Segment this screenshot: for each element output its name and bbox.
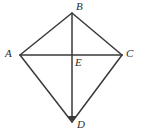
kite-diagram-svg xyxy=(0,0,144,134)
vertex-label-E: E xyxy=(75,57,82,68)
vertex-label-D: D xyxy=(77,119,85,130)
vertex-label-A: A xyxy=(5,48,12,59)
kite-outline xyxy=(20,13,122,122)
vertex-label-B: B xyxy=(76,1,83,12)
side-BC xyxy=(72,13,122,55)
side-DA xyxy=(20,55,72,122)
vertex-label-C: C xyxy=(126,48,133,59)
geometry-figure-kite: A B C D E xyxy=(0,0,144,134)
kite-diagonals xyxy=(20,13,122,118)
side-AB xyxy=(20,13,72,55)
